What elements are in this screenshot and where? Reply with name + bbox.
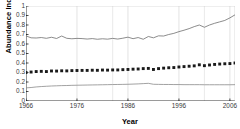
data-marker [86,69,89,72]
data-marker [152,68,155,71]
x-tick-label: 1986 [108,103,148,109]
data-marker [188,65,191,68]
data-marker [193,64,196,67]
y-tick-label: 0.1 [1,88,25,94]
x-tick-label: 1996 [159,103,199,109]
data-marker [40,70,43,73]
data-marker [162,67,165,70]
data-marker [127,68,130,71]
data-marker [60,69,63,72]
data-marker [76,69,79,72]
data-marker [147,67,150,70]
data-marker [91,69,94,72]
y-tick-label: 0.9 [1,12,25,18]
data-marker [167,66,170,69]
data-marker [101,69,104,72]
data-marker [116,68,119,71]
chart-figure: Abundance Index 10.90.80.70.60.50.40.30.… [0,0,240,129]
data-marker [203,64,206,67]
data-marker [157,67,160,70]
data-marker [137,68,140,71]
data-marker [106,69,109,72]
data-marker [96,69,99,72]
data-marker [81,69,84,72]
data-marker [70,69,73,72]
x-tick-label: 1966 [6,103,46,109]
data-marker [234,62,235,65]
plot-area [26,6,235,101]
data-marker [208,64,211,67]
x-tick-label: 1976 [57,103,97,109]
y-tick-label: 0.2 [1,79,25,85]
data-marker [30,71,33,74]
data-marker [142,67,145,70]
data-marker [198,63,201,66]
data-marker [223,62,226,65]
data-marker [65,69,68,72]
data-line [26,83,235,88]
y-tick-label: 0.4 [1,60,25,66]
data-marker [213,63,216,66]
axis-border [26,6,235,101]
y-tick-label: 0.3 [1,69,25,75]
y-tick-label: 0.8 [1,22,25,28]
axis-spines [26,6,235,101]
x-axis-title: Year [24,117,236,126]
data-marker [132,68,135,71]
data-marker [228,62,231,65]
data-line [26,15,235,39]
plot-svg [26,6,235,101]
data-marker [45,70,48,73]
y-tick-label: 1 [1,3,25,9]
y-tick-label: 0.7 [1,31,25,37]
y-tick-label: 0.6 [1,41,25,47]
data-marker [111,68,114,71]
data-marker [35,70,38,73]
data-marker [50,70,53,73]
y-axis-tick-labels: 10.90.80.70.60.50.40.30.20.10 [0,0,25,101]
data-marker [183,65,186,68]
data-marker [177,66,180,69]
x-axis-tick-labels: 19661976198619962006 [26,103,235,115]
data-marker [55,70,58,73]
x-tick-label: 2006 [210,103,240,109]
data-marker [26,71,27,74]
data-marker [172,66,175,69]
y-tick-label: 0.5 [1,50,25,56]
data-marker [218,63,221,66]
data-marker [121,68,124,71]
